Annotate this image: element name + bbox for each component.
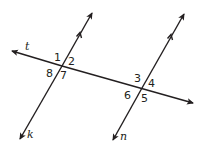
angle-2-label: 2	[68, 55, 75, 68]
angle-1-label: 1	[54, 51, 61, 64]
line-k-up-arrow-icon	[62, 13, 92, 66]
line-n-label: n	[120, 130, 127, 142]
angle-5-label: 5	[141, 92, 148, 105]
line-t	[12, 51, 193, 103]
angle-3-label: 3	[134, 72, 141, 85]
angle-7-label: 7	[60, 69, 67, 82]
angle-8-label: 8	[46, 67, 53, 80]
line-k-label: k	[27, 128, 34, 141]
line-t-label: t	[25, 40, 30, 53]
line-k	[20, 13, 92, 139]
angle-6-label: 6	[124, 89, 131, 102]
angle-4-label: 4	[148, 77, 155, 90]
parallel-lines-diagram: t k n 1 2 8 7 3 4 6 5	[0, 0, 208, 142]
